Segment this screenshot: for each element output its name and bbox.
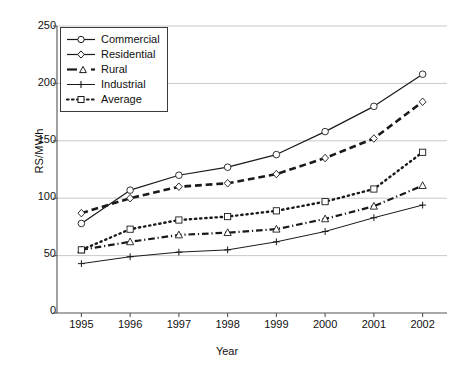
- x-axis-title: Year: [0, 345, 454, 357]
- series-industrial: [78, 202, 426, 267]
- legend-label-industrial: Industrial: [101, 78, 146, 91]
- legend-label-residential: Residential: [101, 48, 155, 61]
- legend-key-average-icon: [66, 93, 96, 106]
- legend: Commercial Residential Rural Industria: [60, 27, 168, 112]
- x-tick-2002: 2002: [393, 318, 453, 330]
- legend-item-residential[interactable]: Residential: [66, 47, 160, 62]
- line-chart: 250 200 150 100 50 0 RS/MWh 199519961997…: [0, 0, 454, 370]
- legend-item-commercial[interactable]: Commercial: [66, 32, 160, 47]
- legend-item-industrial[interactable]: Industrial: [66, 77, 160, 92]
- legend-label-commercial: Commercial: [101, 33, 160, 46]
- x-axis-tickmarks: [81, 313, 422, 317]
- legend-label-average: Average: [101, 93, 142, 106]
- series-residential: [78, 98, 426, 217]
- legend-label-rural: Rural: [101, 63, 127, 76]
- legend-item-average[interactable]: Average: [66, 92, 160, 107]
- legend-key-industrial-icon: [66, 78, 96, 91]
- legend-key-rural-icon: [66, 63, 96, 76]
- legend-key-commercial-icon: [66, 33, 96, 46]
- legend-item-rural[interactable]: Rural: [66, 62, 160, 77]
- legend-key-residential-icon: [66, 48, 96, 61]
